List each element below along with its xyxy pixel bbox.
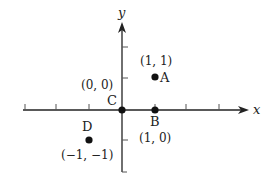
x-axis-label: x [253,102,261,117]
point-c-marker [118,106,125,113]
point-a-coords: (1, 1) [140,54,172,68]
plot-canvas: x y A (1, 1) B (1, 0) C (0, 0) [0,0,261,180]
coordinate-plane: x y A (1, 1) B (1, 0) C (0, 0) [0,0,261,180]
point-d-coords: (−1, −1) [61,148,113,162]
point-a: A (1, 1) [140,54,172,85]
point-c-name: C [107,93,117,108]
x-axis: x [23,102,261,117]
y-axis-label: y [117,5,126,20]
point-d-marker [85,136,92,143]
point-c: C (0, 0) [81,78,126,114]
point-b-name: B [150,114,160,129]
point-a-name: A [159,70,170,85]
point-a-marker [151,73,158,80]
point-b: B (1, 0) [139,106,171,145]
point-d: D (−1, −1) [61,119,113,162]
point-b-coords: (1, 0) [139,131,171,145]
point-c-coords: (0, 0) [81,78,113,92]
y-axis-ticks [122,47,128,140]
y-axis: y [117,5,128,172]
point-d-name: D [82,119,92,134]
point-b-marker [151,106,158,113]
